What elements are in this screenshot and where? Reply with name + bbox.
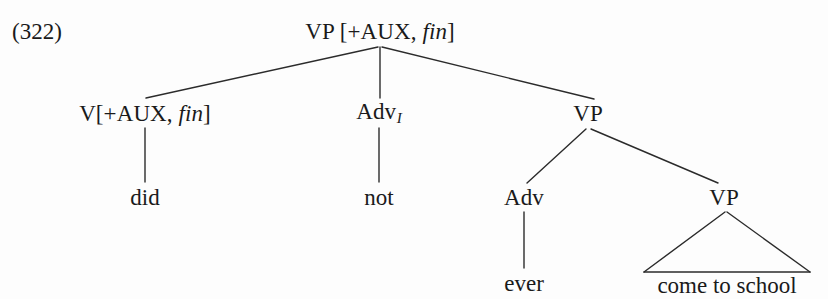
v-aux-features-close: ] xyxy=(203,101,211,126)
adv-node: Adv xyxy=(504,186,544,209)
terminal-did: did xyxy=(130,186,159,209)
adv-i-category: Adv xyxy=(356,99,396,124)
vp-root-features-italic: fin xyxy=(422,19,447,44)
vp-root-category: VP xyxy=(305,19,334,44)
syntax-tree-figure: (322) VP [+AUX, fin] V[+AUX, fin] AdvI V… xyxy=(0,0,828,299)
vp-root-features-open: [+AUX, xyxy=(334,19,423,44)
v-aux-features-italic: fin xyxy=(179,101,204,126)
edge-triangle-left xyxy=(644,212,725,272)
vp-middle-node: VP xyxy=(573,102,603,125)
edge-vp-middle-to-vp-lower xyxy=(591,129,718,183)
edge-root-to-v-aux xyxy=(146,47,378,98)
adv-i-node: AdvI xyxy=(356,100,402,125)
vp-root-node: VP [+AUX, fin] xyxy=(305,20,455,43)
edge-vp-middle-to-adv xyxy=(527,129,586,183)
v-aux-category: V[+AUX, xyxy=(79,101,178,126)
vp-root-features-close: ] xyxy=(447,19,455,44)
terminal-come-to-school: come to school xyxy=(657,274,796,297)
vp-lower-node: VP xyxy=(709,186,739,209)
v-aux-node: V[+AUX, fin] xyxy=(79,102,211,125)
terminal-not: not xyxy=(364,186,393,209)
terminal-ever: ever xyxy=(504,272,544,295)
edge-root-to-vp-middle xyxy=(382,47,594,99)
adv-i-subscript: I xyxy=(396,110,402,127)
edge-triangle-right xyxy=(727,212,810,272)
tree-branch-lines xyxy=(0,0,828,299)
